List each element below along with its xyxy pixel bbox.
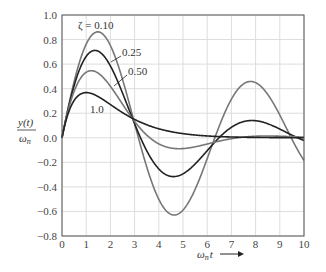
svg-text:−0.2: −0.2 xyxy=(37,156,57,168)
tick-labels: 0123456789101.00.80.60.40.20.0−0.2−0.4−0… xyxy=(37,9,310,250)
svg-text:1.0: 1.0 xyxy=(43,9,57,21)
label-zeta-050: 0.50 xyxy=(128,65,148,77)
svg-text:0: 0 xyxy=(59,238,65,250)
label-zeta-025: 0.25 xyxy=(122,46,142,58)
grid xyxy=(62,15,304,236)
svg-text:9: 9 xyxy=(277,238,283,250)
svg-text:8: 8 xyxy=(253,238,259,250)
svg-text:ωn: ωn xyxy=(19,132,31,146)
svg-text:10: 10 xyxy=(299,238,311,250)
svg-text:0.2: 0.2 xyxy=(43,107,57,119)
svg-text:2: 2 xyxy=(108,238,114,250)
svg-text:3: 3 xyxy=(132,238,138,250)
svg-text:−0.6: −0.6 xyxy=(37,205,57,217)
svg-text:0.4: 0.4 xyxy=(43,83,57,95)
svg-text:−0.4: −0.4 xyxy=(37,181,57,193)
svg-text:5: 5 xyxy=(180,238,186,250)
arrow-head-icon xyxy=(238,251,244,257)
svg-text:0.0: 0.0 xyxy=(43,132,57,144)
svg-text:0.8: 0.8 xyxy=(43,34,57,46)
y-axis-label: y(t) ωn xyxy=(17,116,36,146)
label-zeta-010: ζ = 0.10 xyxy=(78,19,114,32)
impulse-response-chart: 0123456789101.00.80.60.40.20.0−0.2−0.4−0… xyxy=(0,0,326,272)
svg-text:y(t): y(t) xyxy=(17,116,34,129)
svg-text:1: 1 xyxy=(83,238,89,250)
svg-text:4: 4 xyxy=(156,238,162,250)
svg-text:−0.8: −0.8 xyxy=(37,230,57,242)
x-axis-label: ωnt xyxy=(197,248,214,262)
label-zeta-100: 1.0 xyxy=(90,103,104,115)
svg-text:7: 7 xyxy=(229,238,235,250)
svg-text:0.6: 0.6 xyxy=(43,58,57,70)
